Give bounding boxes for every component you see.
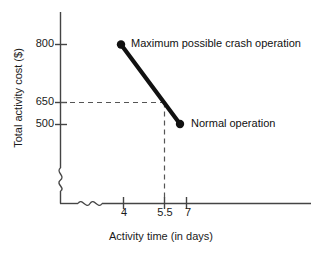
data-point-normal (176, 120, 184, 128)
x-axis-break-icon (78, 202, 102, 206)
x-axis-title: Activity time (in days) (96, 230, 226, 242)
tradeoff-line (121, 45, 180, 125)
data-point-crash (117, 40, 125, 48)
normal-operation-label: Normal operation (191, 117, 275, 129)
y-axis-title: Total activity cost ($) (12, 33, 24, 163)
cost-time-tradeoff-chart: 800 650 500 4 5.5 7 Total activity cost … (0, 0, 324, 257)
crash-operation-label: Maximum possible crash operation (131, 37, 301, 49)
y-tick-label-500: 500 (26, 117, 54, 129)
y-tick-label-650: 650 (26, 95, 54, 107)
y-tick-label-800: 800 (26, 37, 54, 49)
x-tick-label-7: 7 (176, 206, 200, 218)
y-axis-break-icon (59, 168, 62, 191)
x-tick-label-4: 4 (112, 206, 136, 218)
